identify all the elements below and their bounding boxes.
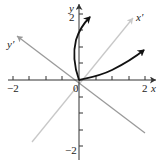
upper-branch-curve — [74, 17, 90, 80]
x-axis-label: x — [150, 82, 156, 94]
y-tick-label-2: 2 — [69, 11, 75, 23]
right-branch-curve — [79, 50, 144, 80]
x-prime-label: x′ — [135, 11, 144, 23]
y-prime-axis — [17, 36, 145, 133]
x-tick-label-neg2: −2 — [7, 82, 19, 94]
x-tick-label-2: 2 — [142, 82, 148, 94]
y-tick-label-neg2: −2 — [65, 144, 77, 156]
chart-canvas: y 2 x′ y′ x −2 0 2 −2 — [0, 0, 160, 162]
origin-label: 0 — [73, 82, 79, 94]
y-prime-label: y′ — [6, 38, 15, 50]
rotated-axes-figure: y 2 x′ y′ x −2 0 2 −2 — [0, 0, 160, 162]
